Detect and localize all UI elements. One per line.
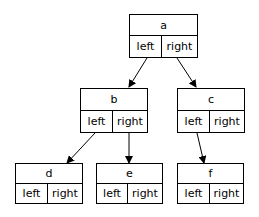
node-f: f left right [177, 163, 244, 204]
node-label: a [130, 15, 197, 36]
node-label: c [178, 89, 244, 111]
field-left: left [81, 111, 113, 133]
node-a: a left right [129, 14, 198, 58]
node-label: f [178, 164, 243, 184]
field-left: left [97, 184, 128, 204]
field-right: right [210, 111, 244, 133]
field-left: left [178, 184, 210, 204]
node-label: e [97, 164, 162, 184]
field-right: right [128, 184, 162, 204]
node-label: b [81, 89, 147, 111]
node-label: d [16, 164, 82, 184]
field-left: left [178, 111, 210, 133]
edge-c-f [197, 133, 204, 163]
edge-a-b [129, 58, 147, 87]
edge-a-c [177, 58, 196, 87]
node-b: b left right [80, 88, 148, 133]
field-right: right [162, 36, 197, 57]
node-d: d left right [15, 163, 83, 204]
field-right: right [113, 111, 147, 133]
field-left: left [16, 184, 48, 204]
field-right: right [210, 184, 243, 204]
field-right: right [48, 184, 82, 204]
node-c: c left right [177, 88, 245, 133]
edge-b-d [67, 133, 95, 163]
field-left: left [130, 36, 162, 57]
node-e: e left right [96, 163, 163, 204]
